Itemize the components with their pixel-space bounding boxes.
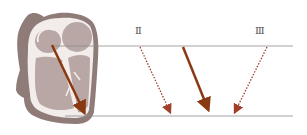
left-atrium [62, 22, 92, 52]
lead-ii-projection-arrow [140, 47, 170, 112]
lead-ii-label: Ⅱ [135, 26, 142, 36]
cardiac-vector-diagram: Ⅱ Ⅲ [0, 0, 307, 135]
diagram-canvas [0, 0, 307, 135]
lead-iii-label: Ⅲ [255, 26, 265, 36]
mean-vector-arrow [183, 47, 208, 109]
heart-illustration [16, 13, 98, 124]
lead-iii-projection-arrow [235, 47, 267, 112]
